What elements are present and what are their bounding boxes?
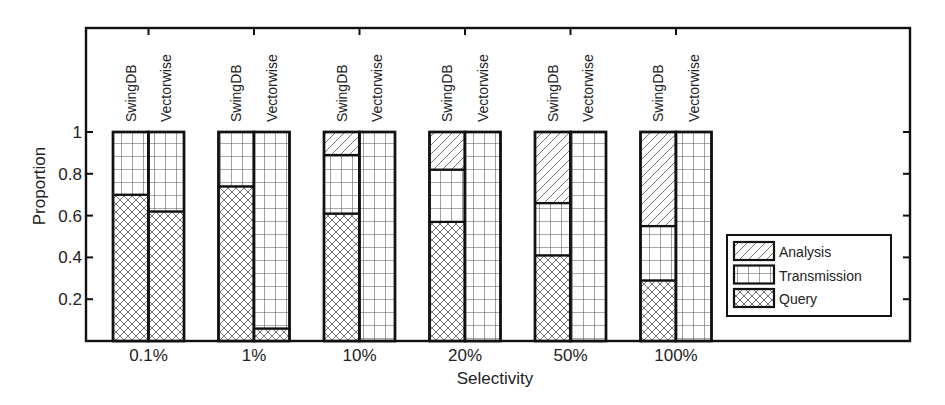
- bar-segment-query: [641, 280, 677, 341]
- x-tick-label: 100%: [654, 346, 697, 365]
- y-tick-label: 1: [73, 123, 82, 142]
- bar-segment-analysis: [641, 132, 677, 226]
- bar-system-label: SwingDB: [439, 64, 455, 122]
- bar-group: SwingDBVectorwise: [324, 54, 395, 341]
- bar-segment-query: [149, 211, 185, 341]
- y-tick-label: 0.6: [58, 207, 82, 226]
- legend-label: Transmission: [779, 268, 862, 284]
- bar-group: SwingDBVectorwise: [641, 54, 712, 341]
- bar-system-label: Vectorwise: [158, 54, 174, 122]
- x-tick-label: 50%: [553, 346, 587, 365]
- bar-system-label: SwingDB: [334, 64, 350, 122]
- legend-swatch-transmission: [734, 266, 774, 284]
- stacked-bar-chart: SwingDBVectorwiseSwingDBVectorwiseSwingD…: [0, 0, 945, 405]
- bar-system-label: Vectorwise: [686, 54, 702, 122]
- bar-segment-query: [430, 222, 466, 341]
- bar-segment-transmission: [149, 132, 185, 211]
- y-tick-label: 0.4: [58, 248, 82, 267]
- bar-segment-query: [254, 328, 290, 341]
- bar-segment-analysis: [430, 132, 466, 170]
- x-tick-label: 20%: [448, 346, 482, 365]
- bar-system-label: SwingDB: [650, 64, 666, 122]
- y-tick-label: 0.8: [58, 165, 82, 184]
- bars-group: SwingDBVectorwiseSwingDBVectorwiseSwingD…: [113, 54, 712, 341]
- bar-segment-transmission: [324, 155, 360, 214]
- bar-system-label: Vectorwise: [264, 54, 280, 122]
- x-tick-label: 0.1%: [129, 346, 168, 365]
- bar-segment-transmission: [676, 132, 712, 341]
- bar-segment-transmission: [465, 132, 501, 341]
- bar-segment-query: [113, 195, 149, 341]
- bar-system-label: SwingDB: [545, 64, 561, 122]
- y-axis-title: Proportion: [30, 147, 49, 225]
- bar-segment-transmission: [535, 203, 571, 255]
- x-tick-label: 1%: [242, 346, 267, 365]
- bar-segment-transmission: [360, 132, 396, 341]
- bar-segment-query: [535, 255, 571, 341]
- bar-segment-analysis: [324, 132, 360, 155]
- bar-segment-analysis: [535, 132, 571, 203]
- bar-group: SwingDBVectorwise: [219, 54, 290, 341]
- legend-swatch-query: [734, 289, 774, 307]
- x-tick-label: 10%: [342, 346, 376, 365]
- bar-system-label: SwingDB: [123, 64, 139, 122]
- bar-segment-transmission: [219, 132, 255, 186]
- x-axis: 0.1%1%10%20%50%100%: [129, 28, 698, 365]
- bar-system-label: Vectorwise: [475, 54, 491, 122]
- bar-segment-transmission: [571, 132, 607, 341]
- bar-segment-transmission: [254, 132, 290, 328]
- legend-label: Query: [779, 291, 817, 307]
- bar-segment-query: [324, 214, 360, 341]
- x-axis-title: Selectivity: [457, 369, 534, 388]
- bar-system-label: Vectorwise: [369, 54, 385, 122]
- bar-segment-transmission: [430, 170, 466, 222]
- bar-system-label: SwingDB: [228, 64, 244, 122]
- bar-system-label: Vectorwise: [580, 54, 596, 122]
- y-tick-label: 0.2: [58, 290, 82, 309]
- bar-segment-transmission: [113, 132, 149, 195]
- bar-group: SwingDBVectorwise: [535, 54, 606, 341]
- legend: AnalysisTransmissionQuery: [727, 235, 891, 316]
- bar-group: SwingDBVectorwise: [113, 54, 184, 341]
- bar-segment-query: [219, 186, 255, 341]
- bar-segment-transmission: [641, 226, 677, 280]
- chart-canvas: SwingDBVectorwiseSwingDBVectorwiseSwingD…: [0, 0, 945, 405]
- legend-label: Analysis: [779, 244, 831, 260]
- bar-group: SwingDBVectorwise: [430, 54, 501, 341]
- legend-swatch-analysis: [734, 242, 774, 260]
